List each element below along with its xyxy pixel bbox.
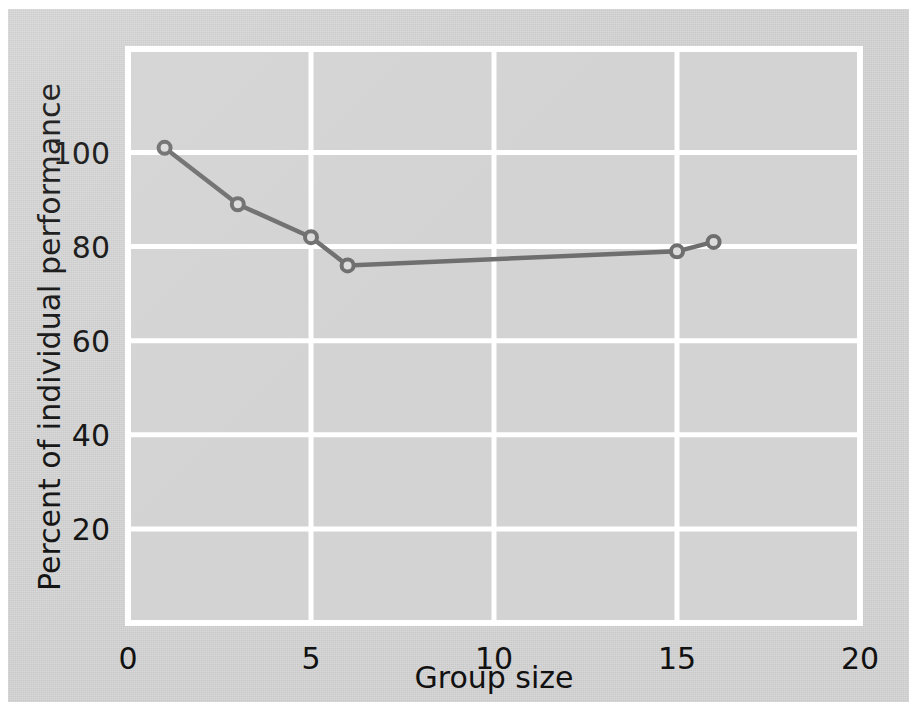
y-tick-label: 40 [72,418,110,453]
data-point [708,236,720,248]
y-axis-title: Percent of individual performance [32,83,67,591]
y-tick-label: 60 [72,324,110,359]
data-point [671,245,683,257]
x-tick-label: 20 [841,641,879,676]
line-chart: 20406080100 05101520 Percent of individu… [8,9,909,702]
x-axis-title: Group size [414,660,573,695]
y-tick-label: 80 [72,230,110,265]
chart-canvas: 20406080100 05101520 Percent of individu… [8,9,909,702]
data-point [232,198,244,210]
x-tick-label: 5 [301,641,320,676]
figure-container: 20406080100 05101520 Percent of individu… [0,0,917,710]
x-tick-label: 0 [118,641,137,676]
x-tick-label: 15 [658,641,696,676]
data-point [305,231,317,243]
data-point [159,142,171,154]
data-point [342,259,354,271]
y-tick-label: 20 [72,512,110,547]
